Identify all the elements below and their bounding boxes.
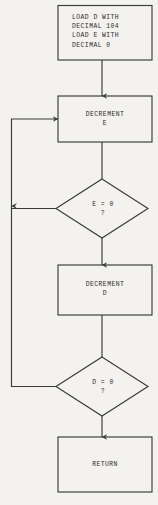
node-init-shape <box>58 6 152 61</box>
flowchart-graphics <box>0 0 158 505</box>
node-decrement-e-shape <box>58 96 152 142</box>
edge-loop-riser <box>12 119 59 209</box>
node-return-shape <box>58 437 152 492</box>
node-condition-d-shape <box>56 357 148 416</box>
flowchart-canvas: LOAD D WITH DECIMAL 104 LOAD E WITH DECI… <box>0 0 158 505</box>
edge-condition-d-loopback <box>12 206 57 387</box>
node-decrement-d-shape <box>58 265 152 315</box>
node-condition-e-shape <box>56 179 148 238</box>
